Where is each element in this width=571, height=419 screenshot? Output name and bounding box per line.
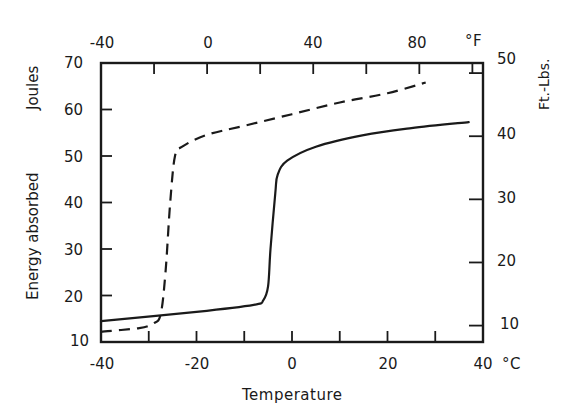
- y2-tick-label: 20: [497, 252, 516, 270]
- axis-ticks: [101, 63, 483, 342]
- y-tick-label: 70: [64, 54, 83, 72]
- x2-tick-label: 0: [203, 34, 213, 52]
- plot-frame: [101, 63, 483, 342]
- y2-tick-label: 50: [497, 50, 516, 68]
- y2-tick-label: 30: [497, 189, 516, 207]
- solid-series-line: [101, 122, 469, 321]
- x-axis-title: Temperature: [242, 386, 343, 404]
- y-tick-label: 50: [64, 148, 83, 166]
- y-tick-label: 10: [70, 332, 89, 350]
- y-axis-title: Energy absorbed: [24, 173, 42, 300]
- x-tick-label: 40: [473, 355, 492, 373]
- y2-axis-title: Ft.-Lbs.: [536, 59, 552, 110]
- x-unit-label: °C: [502, 355, 521, 373]
- x-tick-label: -40: [90, 355, 115, 373]
- x-tick-label: 0: [287, 355, 297, 373]
- y2-tick-label: 40: [497, 125, 516, 143]
- y-tick-label: 20: [64, 288, 83, 306]
- y-axis-unit-label: Joules: [24, 66, 42, 110]
- x2-unit-label: °F: [465, 32, 482, 50]
- y2-tick-label: 10: [500, 315, 519, 333]
- dashed-series-line: [101, 83, 426, 332]
- x-tick-label: -20: [185, 355, 210, 373]
- x2-tick-label: -40: [90, 34, 115, 52]
- x2-tick-label: 80: [407, 34, 426, 52]
- x-tick-label: 20: [378, 355, 397, 373]
- x2-tick-label: 40: [303, 34, 322, 52]
- y-tick-label: 30: [64, 241, 83, 259]
- y-tick-label: 60: [64, 101, 83, 119]
- y-tick-label: 40: [64, 194, 83, 212]
